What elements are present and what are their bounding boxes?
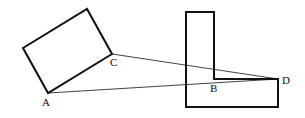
label-a: A	[42, 96, 50, 108]
rotated-rectangle	[23, 9, 112, 93]
line-a-to-d	[48, 79, 278, 93]
label-d: D	[282, 74, 290, 86]
line-c-to-d	[112, 54, 278, 79]
l-shaped-polygon	[186, 12, 278, 107]
label-c: C	[110, 56, 117, 68]
geometry-diagram: A B C D	[0, 0, 305, 118]
label-b: B	[210, 82, 217, 94]
